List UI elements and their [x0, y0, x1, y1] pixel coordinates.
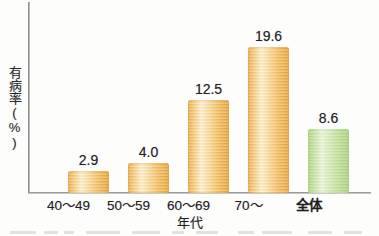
- x-tick-label-4: 全体: [272, 198, 345, 214]
- bar-slot-2: 12.5: [188, 2, 229, 193]
- bar-slot-1: 4.0: [128, 2, 169, 193]
- bar-slot-3: 19.6: [248, 2, 289, 193]
- bar-value-2: 12.5: [180, 82, 237, 96]
- bar-chart-figure: 有病率(%) 2.9 4.0 12.5 19.6 8.6: [0, 0, 379, 236]
- bar-total: 8.6: [308, 129, 349, 193]
- bar-slot-0: 2.9: [68, 2, 109, 193]
- bar-value-4: 8.6: [300, 111, 357, 125]
- bar-70-plus: 19.6: [248, 47, 289, 193]
- plot-area: 2.9 4.0 12.5 19.6 8.6: [30, 2, 371, 193]
- bar-40-49: 2.9: [68, 171, 109, 193]
- bar-slot-4: 8.6: [308, 2, 349, 193]
- y-axis-title: 有病率(%): [4, 66, 22, 150]
- cropped-caption-strip: [0, 229, 379, 236]
- bar-value-1: 4.0: [120, 145, 177, 159]
- bar-50-59: 4.0: [128, 163, 169, 193]
- bar-60-69: 12.5: [188, 100, 229, 193]
- bar-value-0: 2.9: [60, 153, 117, 167]
- bar-value-3: 19.6: [240, 29, 297, 43]
- x-axis-title: 年代: [0, 215, 379, 230]
